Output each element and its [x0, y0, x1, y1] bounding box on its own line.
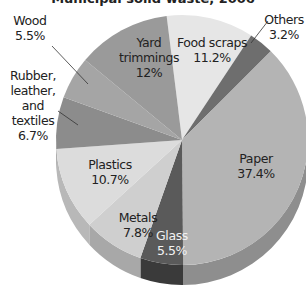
label-food: Food scraps 11.2% — [172, 35, 252, 65]
label-food-name: Food scraps — [172, 35, 252, 50]
label-paper-value: 37.4% — [228, 166, 284, 181]
label-plastics-name: Plastics — [78, 157, 142, 172]
label-rubber-line2: leather, and — [0, 83, 66, 113]
label-yard-value: 12% — [112, 65, 186, 80]
label-paper: Paper 37.4% — [228, 151, 284, 181]
label-glass: Glass 5.5% — [152, 228, 192, 258]
label-wood-name: Wood — [5, 13, 55, 28]
label-glass-value: 5.5% — [152, 243, 192, 258]
label-rubber-line3: textiles — [0, 113, 66, 128]
label-glass-name: Glass — [152, 228, 192, 243]
label-paper-name: Paper — [228, 151, 284, 166]
label-others-name: Others — [262, 12, 306, 27]
label-others-value: 3.2% — [262, 27, 306, 42]
label-rubber: Rubber, leather, and textiles 6.7% — [0, 68, 66, 143]
label-wood-value: 5.5% — [5, 28, 55, 43]
label-food-value: 11.2% — [172, 50, 252, 65]
label-others: Others 3.2% — [262, 12, 306, 42]
label-wood: Wood 5.5% — [5, 13, 55, 43]
label-rubber-value: 6.7% — [0, 128, 66, 143]
label-metals-name: Metals — [108, 210, 168, 225]
label-rubber-line1: Rubber, — [0, 68, 66, 83]
label-plastics: Plastics 10.7% — [78, 157, 142, 187]
label-plastics-value: 10.7% — [78, 172, 142, 187]
